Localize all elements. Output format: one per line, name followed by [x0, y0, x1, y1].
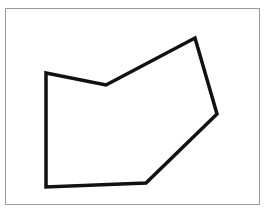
- diagram-canvas: [0, 0, 266, 216]
- polygon-diagram: [0, 0, 266, 216]
- hexagon-outline: [46, 38, 217, 187]
